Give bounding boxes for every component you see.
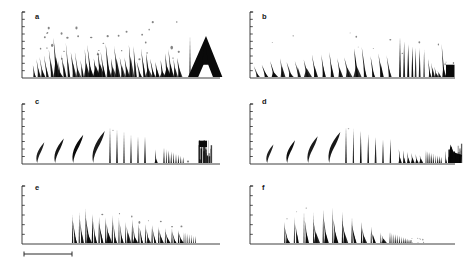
figure-canvas: abcdef <box>0 0 464 262</box>
panel-label-c: c <box>35 97 39 106</box>
oscillogram-figure: abcdef <box>0 0 464 262</box>
panel-label-b: b <box>262 12 267 21</box>
figure-background <box>0 0 464 262</box>
panel-label-e: e <box>35 183 39 192</box>
panel-label-d: d <box>262 97 267 106</box>
